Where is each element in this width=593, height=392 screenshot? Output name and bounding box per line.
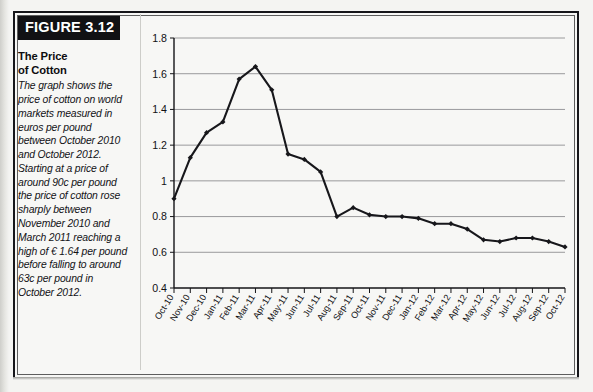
x-axis-ticks (174, 288, 565, 293)
data-point-markers (171, 64, 567, 250)
data-point-marker (546, 239, 551, 244)
data-point-marker (530, 235, 535, 240)
y-axis-tick-label: 0.6 (152, 246, 167, 258)
y-axis-labels: 1.81.61.41.210.80.60.4 (152, 32, 167, 294)
page-edge-shadow (0, 0, 9, 392)
figure-root: FIGURE 3.12 The Price of Cotton The grap… (0, 0, 593, 392)
figure-caption-text: The graph shows the price of cotton on w… (18, 79, 131, 300)
caption-column: FIGURE 3.12 The Price of Cotton The grap… (18, 16, 131, 368)
data-point-marker (448, 221, 453, 226)
grid-group (174, 38, 565, 252)
data-point-marker (562, 244, 567, 249)
y-axis-tick-label: 1.8 (152, 32, 167, 44)
data-point-marker (514, 235, 519, 240)
data-point-marker (497, 239, 502, 244)
figure-title-line-2: of Cotton (18, 64, 67, 76)
y-axis-tick-label: 1.6 (152, 68, 167, 80)
y-axis-tick-label: 1.2 (152, 139, 167, 151)
x-axis-labels: Oct-10Nov-10Dec-10Jan-11Feb-11Mar-11Apr-… (153, 293, 567, 324)
chart-area: 1.81.61.41.210.80.60.4 Oct-10Nov-10Dec-1… (141, 14, 573, 370)
y-axis-tick-label: 0.4 (152, 282, 167, 294)
figure-number-tag: FIGURE 3.12 (18, 16, 120, 40)
data-point-marker (285, 151, 290, 156)
data-point-marker (399, 214, 404, 219)
figure-bottom-shadow (13, 377, 579, 380)
figure-title-line-1: The Price (18, 50, 67, 62)
data-point-marker (383, 214, 388, 219)
figure-title: The Price of Cotton (18, 49, 131, 78)
data-point-marker (432, 221, 437, 226)
y-axis-tick-label: 1.4 (152, 103, 167, 115)
y-axis-tick-label: 1 (161, 175, 167, 187)
line-chart: 1.81.61.41.210.80.60.4 Oct-10Nov-10Dec-1… (141, 14, 573, 370)
cotton-price-line (174, 67, 565, 247)
y-axis-tick-label: 0.8 (152, 210, 167, 222)
